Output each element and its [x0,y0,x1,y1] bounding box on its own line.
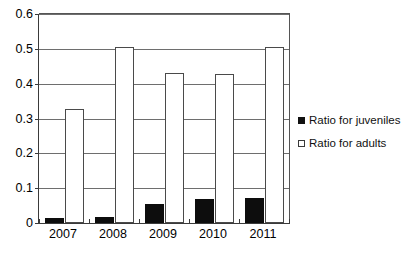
x-axis-tick-label: 2007 [38,228,88,241]
legend-label: Ratio for juveniles [309,114,400,126]
bar-juveniles [45,218,64,223]
bar-adults [215,74,234,223]
y-axis-tick-label: 0.2 [0,147,33,159]
x-axis-tickmark [89,219,90,224]
bar-group [145,14,184,223]
y-axis-tickmark [35,188,39,189]
bar-juveniles [145,204,164,223]
y-axis-tick-label: 0.5 [0,43,33,55]
x-axis-tickmark [189,219,190,224]
bar-adults [115,47,134,223]
y-axis: 00.10.20.30.40.50.6 [0,0,33,260]
x-axis-tick-label: 2008 [88,228,138,241]
legend-swatch-filled-icon [298,117,305,124]
legend-label: Ratio for adults [309,137,386,149]
legend-item: Ratio for juveniles [298,114,410,126]
x-axis-tickmark [39,219,40,224]
x-axis-tick-label: 2011 [238,228,288,241]
legend-item: Ratio for adults [298,137,410,149]
x-axis-tick-label: 2009 [138,228,188,241]
bar-group [45,14,84,223]
plot-frame-right [289,13,290,223]
y-axis-tickmark [35,84,39,85]
y-axis-tickmark [35,49,39,50]
y-axis-tick-label: 0.3 [0,113,33,125]
plot-area [38,14,289,224]
x-axis-tickmark [289,219,290,224]
bar-group [195,14,234,223]
y-axis-tick-label: 0.1 [0,182,33,194]
y-axis-tick-label: 0.6 [0,8,33,20]
bar-juveniles [245,198,264,223]
bar-group [95,14,134,223]
y-axis-tickmark [35,14,39,15]
chart-legend: Ratio for juvenilesRatio for adults [298,114,410,160]
bar-juveniles [95,217,114,223]
bar-adults [265,47,284,223]
x-axis-tick-label: 2010 [188,228,238,241]
y-axis-tickmark [35,119,39,120]
y-axis-tick-label: 0.4 [0,78,33,90]
x-axis-tickmark [139,219,140,224]
x-axis-tickmark [239,219,240,224]
legend-swatch-hollow-icon [298,140,305,147]
bar-adults [165,73,184,223]
y-axis-tickmark [35,153,39,154]
bar-chart: 00.10.20.30.40.50.6 20072008200920102011… [0,0,412,260]
bar-juveniles [195,199,214,223]
bar-group [245,14,284,223]
bar-adults [65,109,84,223]
y-axis-tick-label: 0 [0,217,33,229]
